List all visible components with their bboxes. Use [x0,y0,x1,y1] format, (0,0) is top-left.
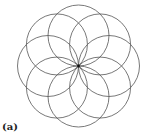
circle-rosette-diagram [0,0,141,139]
center-point [77,65,80,68]
figure-label: (a) [2,121,18,132]
